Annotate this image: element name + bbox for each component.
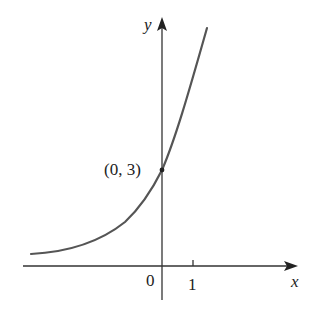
graph — [0, 0, 322, 313]
origin-label: 0 — [146, 272, 155, 289]
point-label: (0, 3) — [104, 161, 141, 178]
tick-label-1: 1 — [188, 276, 197, 293]
exponential-curve — [31, 28, 207, 254]
y-axis-label: y — [144, 16, 152, 33]
x-axis-label: x — [291, 273, 299, 290]
point-marker — [160, 168, 165, 173]
